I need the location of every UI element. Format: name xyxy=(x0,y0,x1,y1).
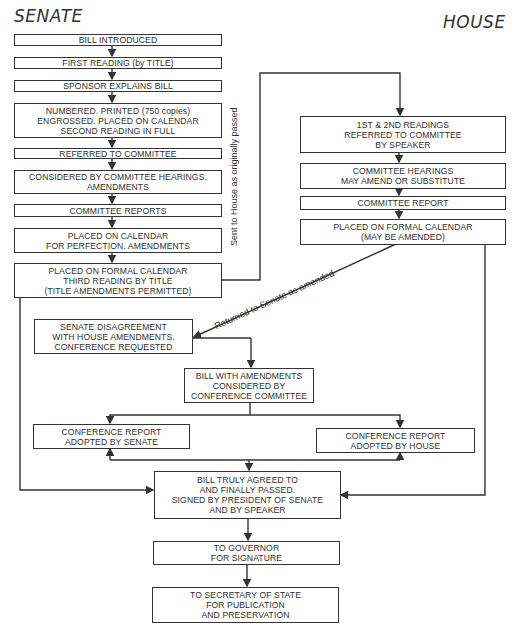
step-text: FOR PUBLICATION xyxy=(206,600,285,610)
house-step-formal-calendar: PLACED ON FORMAL CALENDAR (MAY BE AMENDE… xyxy=(300,219,506,245)
step-text: SENATE DISAGREEMENT xyxy=(60,322,167,332)
step-text: AND FINALLY PASSED. xyxy=(200,485,296,495)
sent-to-house-label: Sent to House as originally passed xyxy=(229,107,239,246)
house-step-committee-hearings: COMMITTEE HEARINGS MAY AMEND OR SUBSTITU… xyxy=(300,163,506,189)
step-text: FOR PERFECTION. AMENDMENTS xyxy=(46,241,190,251)
step-text: ADOPTED BY SENATE xyxy=(65,437,158,447)
senate-step-perfection-calendar: PLACED ON CALENDAR FOR PERFECTION. AMEND… xyxy=(14,228,222,253)
step-text: FIRST READING (by TITLE) xyxy=(62,58,173,68)
step-text: NUMBERED. PRINTED (750 copies) xyxy=(46,106,190,116)
step-text: SPONSOR EXPLAINS BILL xyxy=(63,81,173,91)
house-step-readings: 1ST & 2ND READINGS REFERRED TO COMMITTEE… xyxy=(300,116,506,153)
step-text: CONFERENCE COMMITTEE xyxy=(191,391,307,401)
senate-step-sponsor-explains: SPONSOR EXPLAINS BILL xyxy=(14,80,222,92)
step-text: SIGNED BY PRESIDENT OF SENATE xyxy=(172,495,323,505)
step-text: ENGROSSED. PLACED ON CALENDAR xyxy=(37,116,198,126)
step-text: CONFERENCE REPORT xyxy=(346,431,446,441)
senate-step-referred-to-committee: REFERRED TO COMMITTEE xyxy=(14,148,222,159)
step-text: ADOPTED BY HOUSE xyxy=(351,441,441,451)
senate-step-committee-hearings: CONSIDERED BY COMMITTEE HEARINGS. AMENDM… xyxy=(14,170,222,194)
step-text: REFERRED TO COMMITTEE xyxy=(59,149,176,159)
conference-report-senate-box: CONFERENCE REPORT ADOPTED BY SENATE xyxy=(33,424,190,449)
step-text: CONSIDERED BY COMMITTEE HEARINGS. xyxy=(29,172,207,182)
conference-report-house-box: CONFERENCE REPORT ADOPTED BY HOUSE xyxy=(316,428,475,453)
step-text: PLACED ON CALENDAR xyxy=(68,231,169,241)
step-text: AND PRESERVATION xyxy=(201,610,289,620)
step-text: 1ST & 2ND READINGS xyxy=(357,120,449,130)
step-text: BY SPEAKER xyxy=(375,140,430,150)
senate-step-first-reading: FIRST READING (by TITLE) xyxy=(14,57,222,69)
step-text: WITH HOUSE AMENDMENTS. xyxy=(52,332,175,342)
step-text: THIRD READING BY TITLE xyxy=(63,276,172,286)
house-step-committee-report: COMMITTEE REPORT xyxy=(300,196,506,210)
step-text: CONSIDERED BY xyxy=(213,381,285,391)
step-text: COMMITTEE REPORTS xyxy=(69,206,166,216)
step-text: AMENDMENTS xyxy=(87,182,149,192)
step-text: COMMITTEE REPORT xyxy=(357,198,448,208)
senate-step-bill-introduced: BILL INTRODUCED xyxy=(14,34,222,46)
step-text: REFERRED TO COMMITTEE xyxy=(344,130,461,140)
step-text: PLACED ON FORMAL CALENDAR xyxy=(333,222,472,232)
to-governor-box: TO GOVERNOR FOR SIGNATURE xyxy=(153,541,340,565)
step-text: TO GOVERNOR xyxy=(214,543,279,553)
senate-step-committee-reports: COMMITTEE REPORTS xyxy=(14,204,222,217)
step-text: (TITLE AMENDMENTS PERMITTED) xyxy=(45,286,192,296)
step-text: CONFERENCE REQUESTED xyxy=(54,342,172,352)
step-text: BILL TRULY AGREED TO xyxy=(197,475,298,485)
to-secretary-of-state-box: TO SECRETARY OF STATE FOR PUBLICATION AN… xyxy=(152,587,339,623)
senate-step-numbered-printed: NUMBERED. PRINTED (750 copies) ENGROSSED… xyxy=(14,103,222,138)
step-text: BILL WITH AMENDMENTS xyxy=(196,371,303,381)
step-text: CONFERENCE REPORT xyxy=(62,427,162,437)
final-passage-box: BILL TRULY AGREED TO AND FINALLY PASSED.… xyxy=(154,471,341,519)
step-text: COMMITTEE HEARINGS xyxy=(353,166,454,176)
step-text: AND BY SPEAKER xyxy=(209,505,285,515)
step-text: TO SECRETARY OF STATE xyxy=(190,590,301,600)
step-text: SECOND READING IN FULL xyxy=(61,126,176,136)
step-text: PLACED ON FORMAL CALENDAR xyxy=(48,266,187,276)
step-text: BILL INTRODUCED xyxy=(79,35,158,45)
conference-committee-box: BILL WITH AMENDMENTS CONSIDERED BY CONFE… xyxy=(184,368,314,403)
senate-disagreement-box: SENATE DISAGREEMENT WITH HOUSE AMENDMENT… xyxy=(34,319,193,354)
step-text: FOR SIGNATURE xyxy=(211,553,282,563)
step-text: MAY AMEND OR SUBSTITUTE xyxy=(341,176,465,186)
senate-step-formal-calendar: PLACED ON FORMAL CALENDAR THIRD READING … xyxy=(14,263,222,298)
step-text: (MAY BE AMENDED) xyxy=(361,232,445,242)
